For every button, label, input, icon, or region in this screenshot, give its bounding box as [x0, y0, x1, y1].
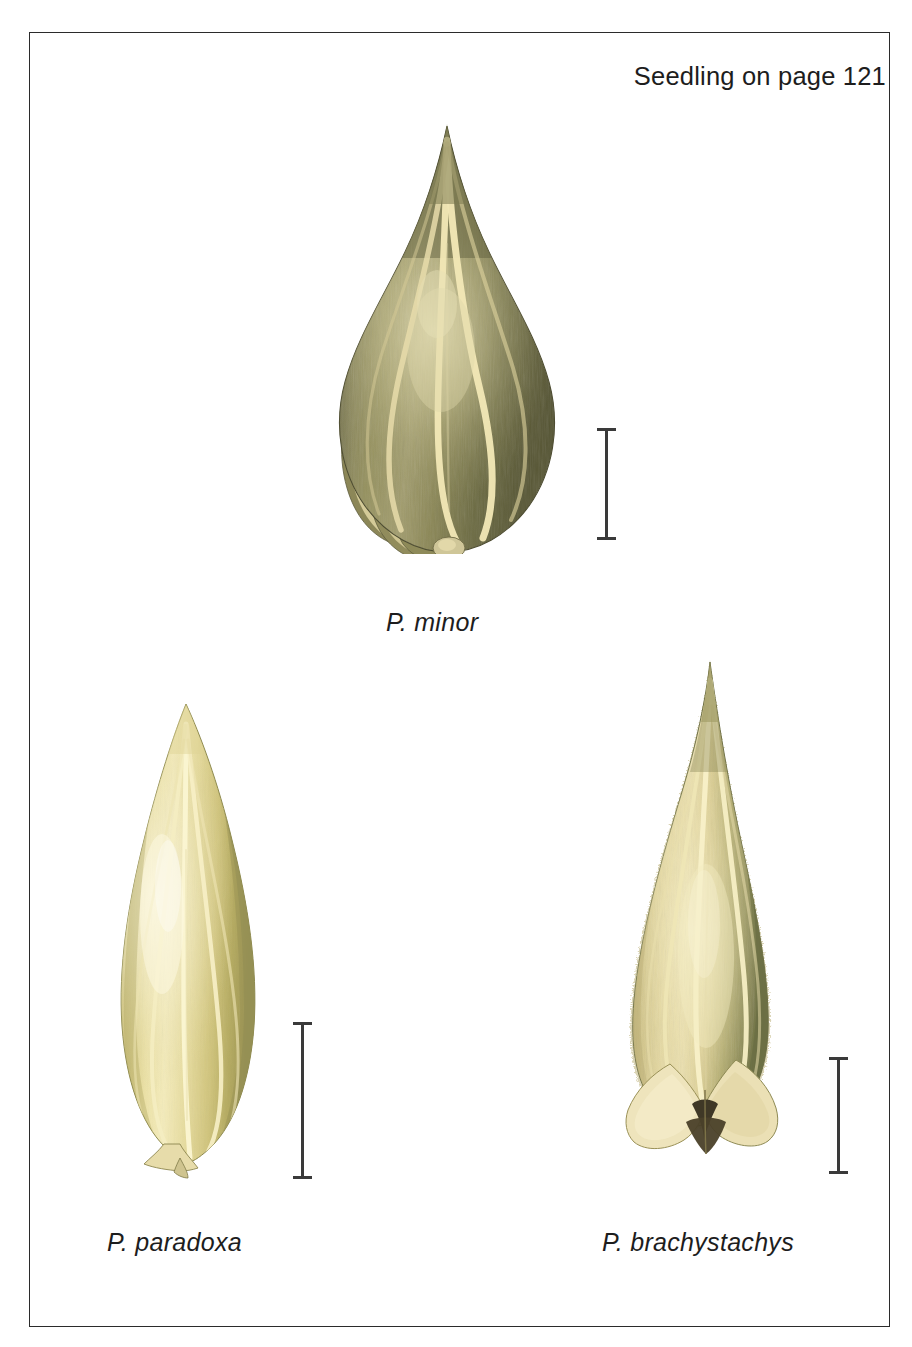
specimen-p-paradoxa [88, 700, 284, 1180]
caption-p-paradoxa: P. paradoxa [107, 1228, 242, 1257]
botanical-plate: Seedling on page 121 [0, 0, 912, 1347]
spikelet-ovate-icon [297, 124, 597, 554]
scale-bar-cap-bottom [597, 537, 616, 540]
spikelet-body [297, 124, 597, 554]
scale-bar-cap-bottom [829, 1171, 848, 1174]
scale-bar-stem [837, 1057, 839, 1174]
spikelet-lanceolate-icon [88, 700, 284, 1180]
seedling-reference-note: Seedling on page 121 [634, 62, 886, 91]
specimen-p-minor [297, 124, 597, 554]
specimen-p-brachystachys [598, 660, 802, 1180]
scale-bar-stem [605, 428, 607, 540]
caption-p-brachystachys: P. brachystachys [602, 1228, 794, 1257]
scale-bar-p-paradoxa [293, 1022, 312, 1179]
caption-p-minor: P. minor [386, 608, 478, 637]
scale-bar-p-minor [597, 428, 616, 540]
scale-bar-cap-bottom [293, 1176, 312, 1179]
scale-bar-stem [301, 1022, 303, 1179]
spikelet-acuminate-icon [598, 660, 802, 1180]
spikelet-body [88, 700, 284, 1180]
scale-bar-p-brachystachys [829, 1057, 848, 1174]
